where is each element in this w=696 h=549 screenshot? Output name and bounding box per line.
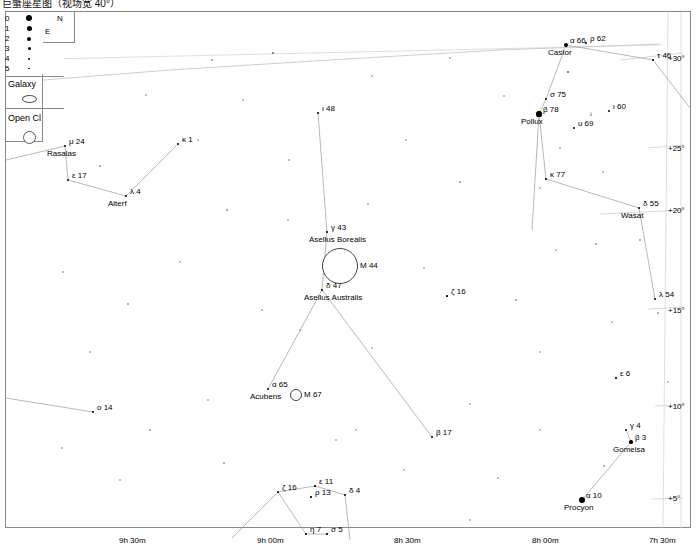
star-marker[interactable] xyxy=(310,496,311,497)
star-bayer-label: ο 14 xyxy=(97,403,113,412)
compass-north-label: N xyxy=(57,14,63,23)
star-bayer-label: γ 4 xyxy=(630,421,641,430)
legend-mag-5: 5 xyxy=(0,64,58,73)
star-proper-name-label: Pollux xyxy=(521,117,543,126)
star-bayer-label: β 17 xyxy=(436,428,452,437)
ra-tick-label: 9h 30m xyxy=(119,536,146,545)
star-bayer-label: σ 5 xyxy=(331,525,343,534)
star-marker[interactable] xyxy=(446,295,448,297)
star-bayer-label: δ 55 xyxy=(643,199,659,208)
deep-sky-label: M 67 xyxy=(304,390,322,399)
star-bayer-label: α 66 xyxy=(570,36,586,45)
legend-mag-5-dot xyxy=(28,68,29,69)
star-marker[interactable] xyxy=(326,533,328,535)
star-bayer-label: ε 6 xyxy=(620,369,630,378)
dec-tick-label: +30° xyxy=(668,54,685,63)
dec-tick-label: +10° xyxy=(668,402,685,411)
star-bayer-label: κ 77 xyxy=(550,170,565,179)
star-proper-name-label: Asellus Borealis xyxy=(309,235,366,244)
star-proper-name-label: Castor xyxy=(548,48,572,57)
legend-mag-3-dot xyxy=(28,47,31,50)
star-bayer-label: λ 4 xyxy=(130,187,141,196)
star-bayer-label: α 65 xyxy=(272,380,288,389)
dec-tick-label: +20° xyxy=(668,206,685,215)
ra-tick-label: 9h 00m xyxy=(257,536,284,545)
open-cluster-icon xyxy=(23,131,36,144)
page-title: 巨蟹座星图（视场宽 40°） xyxy=(2,0,120,10)
star-bayer-label: ε 11 xyxy=(319,477,333,486)
legend-mag-0-label: 0 xyxy=(5,14,9,23)
star-marker[interactable] xyxy=(305,533,307,535)
star-proper-name-label: Procyon xyxy=(564,503,593,512)
legend-mag-1-label: 1 xyxy=(5,24,9,33)
compass-east-label: E xyxy=(45,27,50,36)
dec-tick-label: +5° xyxy=(668,494,680,503)
legend-mag-1-dot xyxy=(27,26,32,31)
star-bayer-label: ζ 16 xyxy=(451,287,466,296)
star-bayer-label: κ 1 xyxy=(182,135,193,144)
star-bayer-label: β 3 xyxy=(635,433,646,442)
open-cluster-marker[interactable] xyxy=(290,389,302,401)
star-bayer-label: ρ 13 xyxy=(315,488,331,497)
star-proper-name-label: Alterf xyxy=(108,199,127,208)
star-bayer-label: η 7 xyxy=(310,525,321,534)
star-bayer-label: λ 54 xyxy=(659,290,674,299)
star-bayer-label: α 10 xyxy=(586,491,602,500)
legend-mag-3-label: 3 xyxy=(5,44,9,53)
star-marker[interactable] xyxy=(629,440,632,443)
star-marker[interactable] xyxy=(314,485,316,487)
star-marker[interactable] xyxy=(177,143,179,145)
star-marker[interactable] xyxy=(344,494,346,496)
star-marker[interactable] xyxy=(326,231,328,233)
legend-divider-1 xyxy=(6,76,64,77)
star-bayer-label: ε 17 xyxy=(72,171,87,180)
legend-mag-5-label: 5 xyxy=(5,64,9,73)
star-proper-name-label: Rasalas xyxy=(47,149,76,158)
star-marker[interactable] xyxy=(536,111,541,116)
star-bayer-label: μ 24 xyxy=(69,137,85,146)
star-marker[interactable] xyxy=(277,491,279,493)
open-cluster-marker[interactable] xyxy=(322,248,358,284)
star-bayer-label: γ 43 xyxy=(331,223,346,232)
legend-galaxy-label: Galaxy xyxy=(8,79,36,89)
legend-mag-4: 4 xyxy=(0,54,58,63)
star-proper-name-label: Gomeisa xyxy=(613,445,645,454)
star-proper-name-label: Asellus Australis xyxy=(304,293,362,302)
legend-mag-3: 3 xyxy=(0,44,58,53)
legend-mag-2-label: 2 xyxy=(5,34,9,43)
star-bayer-label: β 78 xyxy=(543,105,559,114)
star-marker[interactable] xyxy=(652,59,654,61)
star-bayer-label: υ 69 xyxy=(578,119,594,128)
legend-mag-2-dot xyxy=(27,37,31,41)
legend-mag-4-dot xyxy=(28,58,30,60)
star-proper-name-label: Acubens xyxy=(250,392,281,401)
dec-tick-label: +25° xyxy=(668,144,685,153)
deep-sky-label: M 44 xyxy=(360,261,378,270)
galaxy-icon xyxy=(22,95,37,103)
ra-tick-label: 7h 30m xyxy=(649,536,676,545)
legend-divider-2 xyxy=(6,108,64,109)
legend-mag-0-dot xyxy=(26,15,32,21)
star-bayer-label: ι 60 xyxy=(613,102,626,111)
star-bayer-label: ι 48 xyxy=(322,104,335,113)
dec-tick-label: +15° xyxy=(668,306,685,315)
ra-tick-label: 8h 00m xyxy=(532,536,559,545)
star-marker[interactable] xyxy=(92,411,94,413)
legend-mag-4-label: 4 xyxy=(5,54,9,63)
star-marker[interactable] xyxy=(615,377,616,378)
star-bayer-label: ζ 16 xyxy=(282,483,297,492)
ra-tick-label: 8h 30m xyxy=(394,536,421,545)
legend-opencluster-label: Open Cl xyxy=(8,113,41,123)
star-bayer-label: ρ 62 xyxy=(590,34,606,43)
star-bayer-label: δ 4 xyxy=(349,486,360,495)
star-proper-name-label: Wasat xyxy=(621,211,643,220)
star-bayer-label: σ 75 xyxy=(550,90,566,99)
